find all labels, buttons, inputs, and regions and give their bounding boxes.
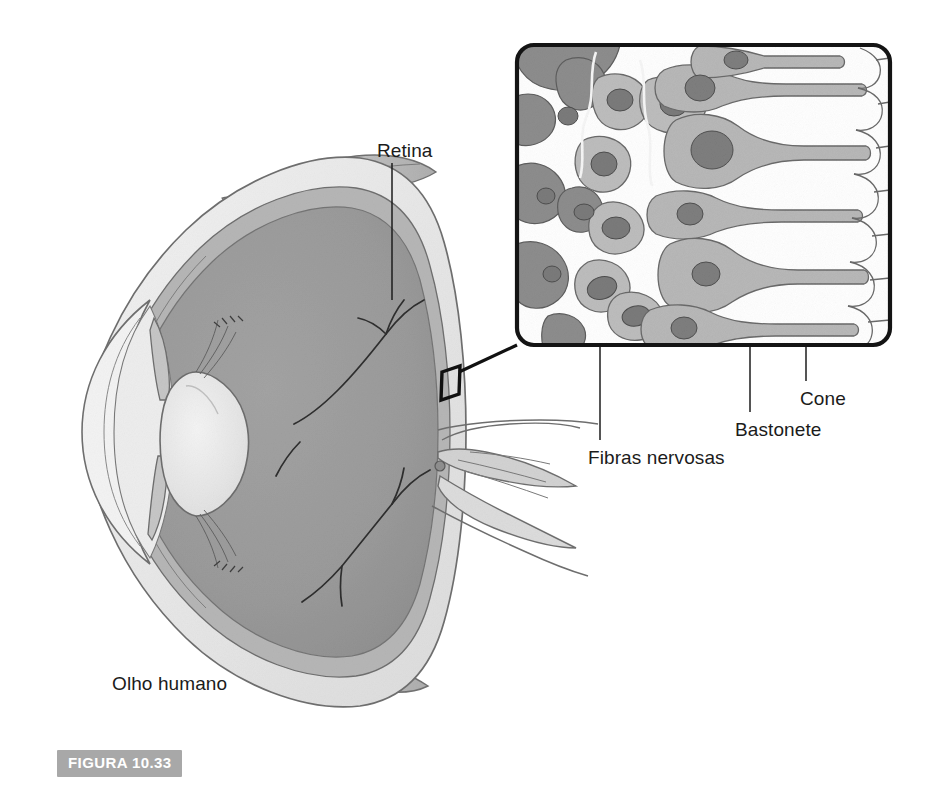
label-bastonete: Bastonete <box>735 419 821 441</box>
figure-number-label: FIGURA 10.33 <box>68 754 171 771</box>
label-retina: Retina <box>377 140 433 162</box>
label-cone: Cone <box>800 388 846 410</box>
figure-number-badge: FIGURA 10.33 <box>57 750 182 777</box>
label-olho-humano: Olho humano <box>112 673 227 695</box>
figure-root: Retina Olho humano Cone Bastonete Fibras… <box>0 0 931 795</box>
label-fibras-nervosas: Fibras nervosas <box>588 447 725 469</box>
